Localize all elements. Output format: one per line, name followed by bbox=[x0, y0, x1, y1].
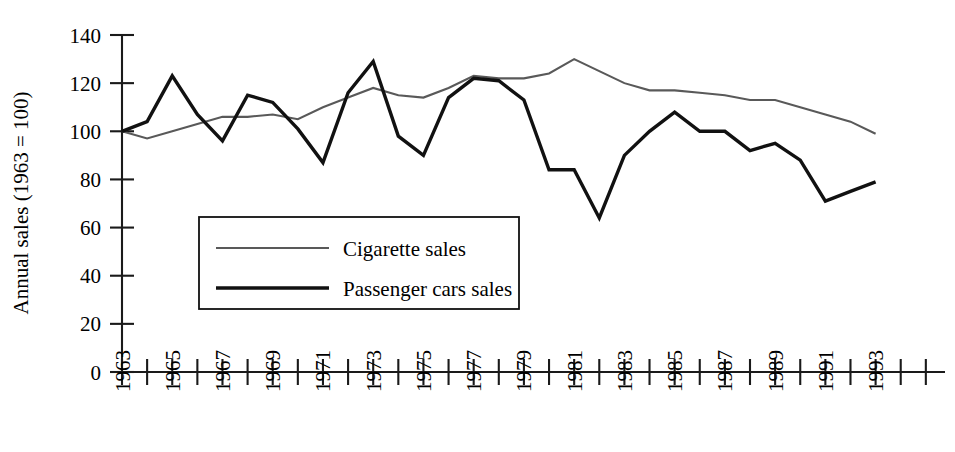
x-tick-label-1967: 1967 bbox=[211, 350, 235, 392]
x-tick-label-1981: 1981 bbox=[563, 350, 587, 392]
x-tick-label-1993: 1993 bbox=[864, 350, 888, 392]
x-tick-label-1977: 1977 bbox=[462, 350, 486, 392]
y-axis-tick-labels: 020406080100120140 bbox=[70, 24, 102, 385]
y-tick-label-60: 60 bbox=[80, 216, 101, 240]
y-axis-title: Annual sales (1963 = 100) bbox=[9, 92, 33, 315]
y-axis-title-label: Annual sales (1963 = 100) bbox=[9, 92, 33, 315]
legend-label-passenger-cars-sales: Passenger cars sales bbox=[343, 277, 512, 301]
y-tick-label-40: 40 bbox=[80, 264, 101, 288]
x-tick-label-1983: 1983 bbox=[613, 350, 637, 392]
series-line-passenger-cars-sales bbox=[122, 61, 876, 217]
x-tick-label-1989: 1989 bbox=[764, 350, 788, 392]
x-tick-label-1969: 1969 bbox=[261, 350, 285, 392]
y-tick-label-100: 100 bbox=[70, 120, 102, 144]
x-tick-label-1971: 1971 bbox=[311, 350, 335, 392]
x-tick-label-1963: 1963 bbox=[111, 350, 135, 392]
series-lines bbox=[122, 59, 876, 218]
legend-label-cigarette-sales: Cigarette sales bbox=[343, 237, 466, 261]
x-tick-label-1985: 1985 bbox=[663, 350, 687, 392]
y-tick-label-80: 80 bbox=[80, 168, 101, 192]
y-tick-label-20: 20 bbox=[80, 312, 101, 336]
x-tick-label-1973: 1973 bbox=[362, 350, 386, 392]
y-tick-label-0: 0 bbox=[91, 361, 102, 385]
chart-container: Annual sales (1963 = 100) 02040608010012… bbox=[0, 0, 955, 452]
y-tick-label-140: 140 bbox=[70, 24, 102, 48]
x-tick-label-1991: 1991 bbox=[814, 350, 838, 392]
series-line-cigarette-sales bbox=[122, 59, 876, 138]
x-tick-label-1987: 1987 bbox=[713, 350, 737, 392]
x-tick-label-1975: 1975 bbox=[412, 350, 436, 392]
x-tick-label-1965: 1965 bbox=[161, 350, 185, 392]
x-tick-label-1979: 1979 bbox=[512, 350, 536, 392]
chart-legend: Cigarette sales Passenger cars sales bbox=[199, 217, 519, 309]
y-tick-label-120: 120 bbox=[70, 72, 102, 96]
line-chart: Annual sales (1963 = 100) 02040608010012… bbox=[0, 0, 955, 452]
